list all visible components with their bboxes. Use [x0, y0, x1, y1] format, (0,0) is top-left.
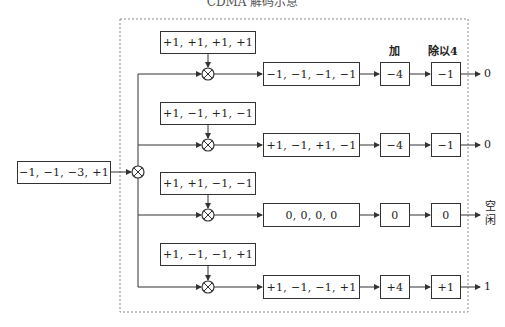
divide-header: 除以4	[428, 42, 458, 58]
code-box-4: +1, −1, −1, +1	[160, 243, 256, 266]
output-3-line1: 空	[485, 200, 496, 214]
divide-box-1: −1	[431, 62, 461, 86]
code-box-3: +1, +1, −1, −1	[160, 172, 256, 195]
divide-box-3: 0	[431, 203, 461, 227]
sum-box-2: −4	[380, 133, 410, 157]
output-4: 1	[484, 280, 491, 293]
sum-box-1: −4	[380, 62, 410, 86]
sum-box-4: +4	[380, 275, 410, 299]
product-box-1: −1, −1, −1, −1	[263, 62, 360, 86]
output-2: 0	[484, 138, 491, 151]
divide-box-4: +1	[431, 275, 461, 299]
code-box-2: +1, −1, +1, −1	[160, 102, 256, 125]
input-signal-box: −1, −1, −3, +1	[17, 161, 111, 184]
output-3: 空 闲	[485, 200, 496, 228]
product-box-4: +1, −1, −1, +1	[263, 275, 360, 299]
output-3-line2: 闲	[485, 214, 496, 228]
divide-box-2: −1	[431, 133, 461, 157]
sum-header: 加	[389, 42, 400, 58]
output-1: 0	[484, 67, 491, 80]
product-box-2: +1, −1, +1, −1	[263, 133, 360, 157]
product-box-3: 0, 0, 0, 0	[263, 203, 360, 227]
sum-box-3: 0	[380, 203, 410, 227]
code-box-1: +1, +1, +1, +1	[160, 31, 256, 54]
